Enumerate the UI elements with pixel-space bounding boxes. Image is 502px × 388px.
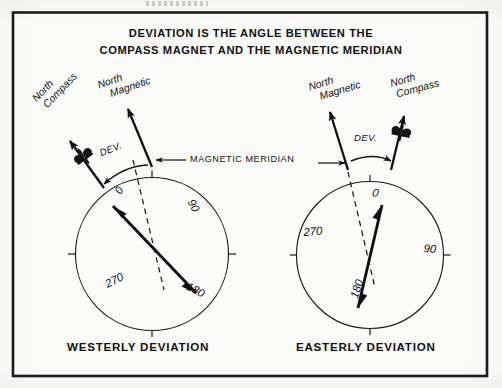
- north-magnetic-line-easterly: [330, 112, 348, 170]
- figure-page: DEVIATION IS THE ANGLE BETWEEN THE COMPA…: [0, 0, 502, 388]
- north-magnetic-line-westerly: [128, 109, 152, 167]
- diagram-vector-layer: [0, 0, 502, 388]
- card-mark-90-easterly: 90: [423, 242, 437, 257]
- figure-title-line-2: COMPASS MAGNET AND THE MAGNETIC MERIDIAN: [0, 44, 502, 57]
- caption-westerly: WESTERLY DEVIATION: [67, 340, 209, 354]
- panel-easterly: [290, 112, 451, 335]
- compass-card-ticks-westerly: [68, 171, 236, 338]
- compass-card-circle-westerly: [76, 178, 229, 331]
- magnetic-meridian-dashed-easterly: [348, 172, 375, 288]
- figure-title-line-1: DEVIATION IS THE ANGLE BETWEEN THE: [0, 27, 502, 40]
- magnetic-meridian-label: MAGNETIC MERIDIAN: [190, 154, 294, 165]
- panel-westerly: [68, 109, 236, 337]
- caption-easterly: EASTERLY DEVIATION: [296, 340, 436, 354]
- magnetic-meridian-dashed-westerly: [133, 160, 164, 290]
- compass-magnet-needle-westerly: [113, 206, 196, 293]
- deviation-arc-easterly: [351, 157, 391, 162]
- deviation-label-easterly: DEV.: [354, 132, 377, 143]
- card-mark-270-easterly: 270: [303, 225, 323, 240]
- deviation-arc-westerly: [104, 165, 148, 184]
- figure-border: [13, 13, 487, 377]
